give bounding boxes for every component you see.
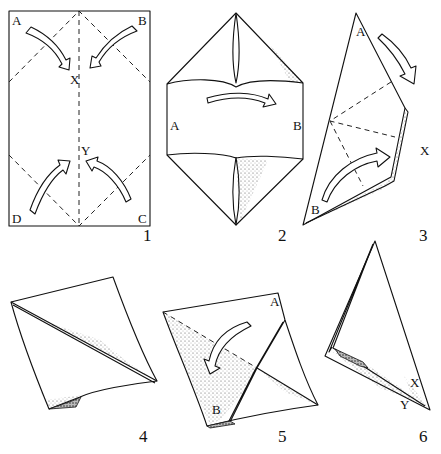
arrow-fold-b-icon xyxy=(322,148,390,202)
label-d: D xyxy=(12,211,21,226)
label-a: A xyxy=(356,24,366,39)
step-6-panel: X Y 6 xyxy=(325,241,430,446)
middle-band xyxy=(167,80,303,159)
paper-outline xyxy=(11,277,157,409)
step-5-panel: A B 5 xyxy=(163,293,318,446)
top-center-flap xyxy=(233,13,239,83)
step-number: 6 xyxy=(419,427,428,446)
arrow-fold-a-icon xyxy=(378,34,416,84)
label-b: B xyxy=(138,13,147,28)
arrow-a-to-b-icon xyxy=(207,93,276,107)
label-a: A xyxy=(12,13,22,28)
label-b: B xyxy=(311,202,320,217)
label-b: B xyxy=(212,402,221,417)
origami-diagram: A B C D X Y 1 A B 2 A B X 3 xyxy=(0,0,441,454)
step-3-panel: A B X 3 xyxy=(303,13,430,245)
label-x: X xyxy=(410,375,420,390)
label-x: X xyxy=(70,72,80,87)
label-b: B xyxy=(293,118,302,133)
label-x: X xyxy=(420,143,430,158)
shading xyxy=(30,370,157,409)
arrow-d-to-y-icon xyxy=(30,160,70,214)
arrow-a-to-x-icon xyxy=(26,27,70,70)
label-c: C xyxy=(138,211,147,226)
label-y: Y xyxy=(400,397,410,412)
step-1-panel: A B C D X Y 1 xyxy=(9,11,152,245)
step-2-panel: A B 2 xyxy=(167,13,303,245)
step-number: 3 xyxy=(419,226,428,245)
label-a: A xyxy=(170,118,180,133)
label-a: A xyxy=(270,294,280,309)
step-number: 1 xyxy=(143,226,152,245)
step-number: 4 xyxy=(139,427,148,446)
arrow-c-to-y-icon xyxy=(86,157,131,202)
crease-upper xyxy=(330,82,395,137)
step-4-panel: 4 xyxy=(11,277,157,446)
shading xyxy=(236,158,268,222)
step-number: 5 xyxy=(278,427,287,446)
label-y: Y xyxy=(81,143,91,158)
step-number: 2 xyxy=(278,226,287,245)
